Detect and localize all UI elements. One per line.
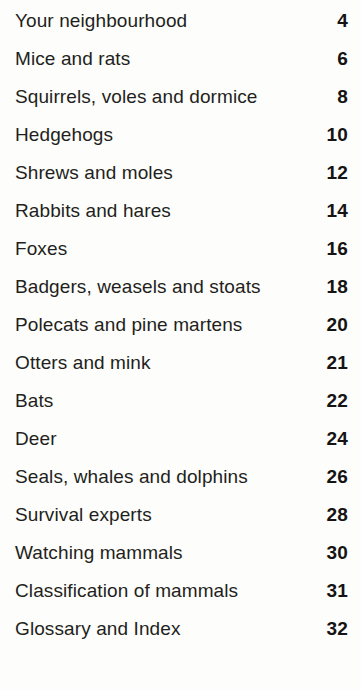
toc-entry[interactable]: Polecats and pine martens20 <box>15 306 348 344</box>
toc-entry-title: Mice and rats <box>15 40 130 78</box>
toc-entry-title: Polecats and pine martens <box>15 306 242 344</box>
toc-entry-title: Your neighbourhood <box>15 2 187 40</box>
toc-entry-title: Hedgehogs <box>15 116 113 154</box>
toc-entry-page-number: 30 <box>322 534 348 572</box>
table-of-contents-page: Your neighbourhood4Mice and rats6Squirre… <box>0 0 361 690</box>
toc-entry[interactable]: Your neighbourhood4 <box>15 2 348 40</box>
toc-entry-page-number: 14 <box>322 192 348 230</box>
toc-entry[interactable]: Watching mammals30 <box>15 534 348 572</box>
toc-entry-page-number: 16 <box>322 230 348 268</box>
toc-entry-page-number: 18 <box>322 268 348 306</box>
toc-entry[interactable]: Glossary and Index32 <box>15 610 348 648</box>
toc-entry-page-number: 4 <box>322 2 348 40</box>
toc-entry[interactable]: Badgers, weasels and stoats18 <box>15 268 348 306</box>
toc-entry-title: Bats <box>15 382 53 420</box>
toc-entry-title: Survival experts <box>15 496 152 534</box>
toc-entry-page-number: 6 <box>322 40 348 78</box>
toc-entry[interactable]: Squirrels, voles and dormice8 <box>15 78 348 116</box>
toc-entry[interactable]: Foxes16 <box>15 230 348 268</box>
toc-entry[interactable]: Survival experts28 <box>15 496 348 534</box>
table-of-contents-list: Your neighbourhood4Mice and rats6Squirre… <box>15 2 348 648</box>
toc-entry[interactable]: Rabbits and hares14 <box>15 192 348 230</box>
toc-entry-title: Classification of mammals <box>15 572 238 610</box>
toc-entry-page-number: 22 <box>322 382 348 420</box>
toc-entry-title: Foxes <box>15 230 67 268</box>
toc-entry-page-number: 21 <box>322 344 348 382</box>
toc-entry[interactable]: Hedgehogs10 <box>15 116 348 154</box>
toc-entry-title: Seals, whales and dolphins <box>15 458 248 496</box>
toc-entry-page-number: 24 <box>322 420 348 458</box>
toc-entry-page-number: 12 <box>322 154 348 192</box>
toc-entry-title: Squirrels, voles and dormice <box>15 78 258 116</box>
toc-entry[interactable]: Mice and rats6 <box>15 40 348 78</box>
toc-entry-page-number: 8 <box>322 78 348 116</box>
toc-entry-title: Watching mammals <box>15 534 183 572</box>
toc-entry-page-number: 20 <box>322 306 348 344</box>
toc-entry-page-number: 26 <box>322 458 348 496</box>
toc-entry-page-number: 32 <box>322 610 348 648</box>
toc-entry-title: Glossary and Index <box>15 610 181 648</box>
toc-entry[interactable]: Deer24 <box>15 420 348 458</box>
toc-entry-title: Deer <box>15 420 57 458</box>
toc-entry-title: Badgers, weasels and stoats <box>15 268 261 306</box>
toc-entry-page-number: 10 <box>322 116 348 154</box>
toc-entry-title: Otters and mink <box>15 344 151 382</box>
toc-entry-title: Rabbits and hares <box>15 192 171 230</box>
toc-entry[interactable]: Otters and mink21 <box>15 344 348 382</box>
toc-entry[interactable]: Bats22 <box>15 382 348 420</box>
toc-entry[interactable]: Shrews and moles12 <box>15 154 348 192</box>
toc-entry-page-number: 28 <box>322 496 348 534</box>
toc-entry-title: Shrews and moles <box>15 154 173 192</box>
toc-entry-page-number: 31 <box>322 572 348 610</box>
toc-entry[interactable]: Classification of mammals31 <box>15 572 348 610</box>
toc-entry[interactable]: Seals, whales and dolphins26 <box>15 458 348 496</box>
